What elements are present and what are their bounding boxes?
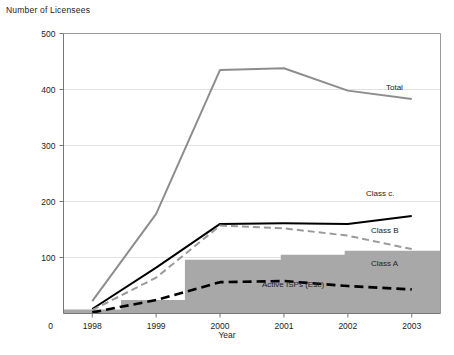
- series-label-class-b: Class B: [371, 226, 399, 235]
- x-tick-label: 2001: [274, 321, 293, 331]
- series-label-total: Total: [386, 83, 403, 92]
- x-tick-label: 2000: [211, 321, 230, 331]
- y-tick-label: 500: [41, 29, 55, 39]
- y-tick-label: 200: [41, 197, 55, 207]
- series-label-class-c: Class c.: [366, 189, 394, 198]
- y-axis-origin-label: 0: [48, 321, 53, 331]
- series-label-class-a: Class A: [371, 259, 399, 268]
- x-tick-label: 1999: [147, 321, 166, 331]
- series-label-active-isps: Active ISPs (Est.): [262, 280, 325, 289]
- y-tick-label: 100: [41, 253, 55, 263]
- chart-container: Number of Licensees 10020030040050001998…: [0, 0, 454, 355]
- x-axis-ticks: 199819992000200120022003: [83, 314, 422, 331]
- x-tick-label: 2003: [402, 321, 421, 331]
- y-tick-label: 300: [41, 141, 55, 151]
- x-tick-label: 1998: [83, 321, 102, 331]
- x-axis-title: Year: [0, 330, 454, 340]
- y-tick-label: 400: [41, 85, 55, 95]
- x-tick-label: 2002: [338, 321, 357, 331]
- chart-plot: 1002003004005000199819992000200120022003…: [0, 0, 454, 355]
- y-axis-ticks: 100200300400500: [41, 29, 63, 263]
